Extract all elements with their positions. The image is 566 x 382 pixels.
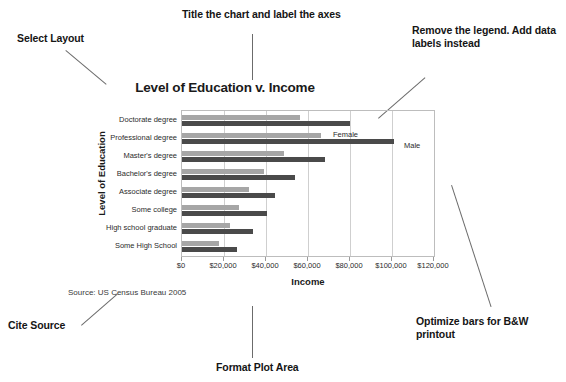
y-axis-category-labels: Doctorate degreeProfessional degreeMaste…	[73, 110, 180, 255]
bar-female	[182, 133, 321, 138]
y-axis-category-label: Some High School	[73, 237, 180, 255]
bar-rows	[182, 111, 434, 256]
annotation-remove-legend: Remove the legend. Add data labels inste…	[412, 24, 562, 50]
bar-male	[182, 175, 295, 180]
annotation-select-layout: Select Layout	[17, 32, 137, 45]
bar-female	[182, 151, 284, 156]
bar-male	[182, 229, 253, 234]
bar-row	[182, 202, 434, 220]
y-axis-category-label: Doctorate degree	[73, 110, 180, 128]
bar-row	[182, 238, 434, 256]
y-axis-category-label: Master's degree	[73, 146, 180, 164]
y-axis-category-label: Some college	[73, 201, 180, 219]
annotation-format-plot-area: Format Plot Area	[216, 361, 376, 374]
x-axis-tick-label: $0	[177, 261, 185, 270]
chart-annotation-page: Select Layout Title the chart and label …	[0, 0, 566, 382]
leader-line-format-plot	[252, 306, 253, 358]
series-label-male: Male	[404, 141, 420, 150]
source-citation: Source: US Census Bureau 2005	[68, 288, 186, 297]
x-axis-tick-label: $20,000	[209, 261, 236, 270]
bar-row	[182, 184, 434, 202]
annotation-cite-source: Cite Source	[8, 319, 118, 332]
bar-female	[182, 205, 239, 210]
bar-row	[182, 220, 434, 238]
x-axis-title: Income	[181, 276, 435, 287]
bar-male	[182, 193, 275, 198]
x-axis-tick-label: $120,000	[417, 261, 448, 270]
x-axis-tick-label: $40,000	[251, 261, 278, 270]
bar-row	[182, 147, 434, 165]
bar-female	[182, 169, 264, 174]
bar-male	[182, 247, 237, 252]
bar-female	[182, 223, 230, 228]
x-axis-tick-label: $60,000	[293, 261, 320, 270]
bar-row	[182, 111, 434, 129]
y-axis-category-label: Bachelor's degree	[73, 164, 180, 182]
series-label-female: Female	[333, 130, 358, 139]
x-axis-tick-label: $80,000	[335, 261, 362, 270]
plot-area: Female Male	[181, 110, 435, 257]
bar-row	[182, 129, 434, 147]
chart: Level of Education v. Income Level of Ed…	[60, 72, 455, 302]
leader-line-optimize-bw	[451, 185, 492, 307]
chart-title: Level of Education v. Income	[60, 80, 390, 95]
annotation-optimize-bw: Optimize bars for B&W printout	[416, 315, 556, 341]
bar-male	[182, 139, 394, 144]
y-axis-category-label: Professional degree	[73, 128, 180, 146]
x-axis-tick-label: $100,000	[375, 261, 406, 270]
bar-male	[182, 157, 325, 162]
bar-male	[182, 121, 350, 126]
y-axis-category-label: High school graduate	[73, 219, 180, 237]
bar-row	[182, 165, 434, 183]
annotation-title-axes: Title the chart and label the axes	[182, 8, 392, 21]
y-axis-category-label: Associate degree	[73, 183, 180, 201]
x-axis-tick-labels: $0$20,000$40,000$60,000$80,000$100,000$1…	[181, 261, 435, 273]
bar-male	[182, 211, 267, 216]
bar-female	[182, 241, 219, 246]
bar-female	[182, 115, 300, 120]
bar-female	[182, 187, 249, 192]
